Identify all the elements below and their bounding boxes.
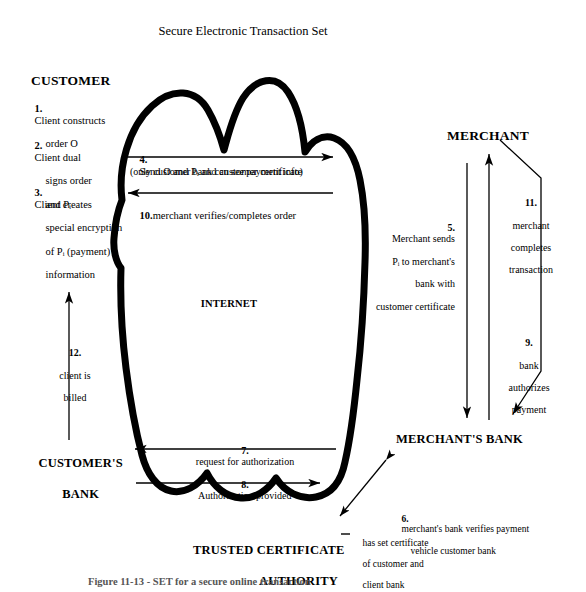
flow-step-12-num: 12. [69, 347, 82, 358]
flow-step-9-line-2: authorizes [508, 382, 549, 393]
cloud-label-internet: INTERNET [198, 298, 260, 310]
customer-step-2-num: 2. [35, 140, 43, 151]
flow-step-8-text: Authorization provided [198, 490, 292, 501]
node-customers-bank: CUSTOMER'S BANK [24, 441, 124, 517]
flow-step-10-num: 10. [140, 210, 153, 221]
customer-step-3-line-2: special encryption [46, 222, 123, 234]
flow-step-9-line-1: bank [519, 360, 538, 371]
flow-step-11: 11. merchant completes transaction [495, 186, 557, 287]
node-tca-line-1: TRUSTED CERTIFICATE [193, 543, 344, 557]
flow-step-11-line-2: completes [511, 242, 552, 253]
node-customers-bank-line-2: BANK [62, 487, 99, 501]
flow-step-5-line-1: Merchant sends [392, 233, 455, 244]
node-merchant: MERCHANT [447, 128, 529, 143]
customer-step-3-line-3: of Pᵢ (payment) [46, 246, 111, 258]
customer-step-3-line-4: information [46, 269, 96, 281]
customer-step-1-num: 1. [35, 103, 43, 114]
tca-note: has set certificate of customer and clie… [353, 527, 428, 592]
customer-step-3: 3. Client creates special encryption of … [24, 175, 122, 293]
flow-step-11-num: 11. [525, 197, 537, 208]
diagram-title: Secure Electronic Transaction Set [143, 24, 343, 38]
flow-step-9: 9. bank authorizes payment [495, 326, 553, 427]
flow-step-5: 5. Merchant sends Pᵢ to merchant's bank … [357, 211, 455, 323]
tca-note-line-2: of customer and [363, 559, 424, 569]
flow-step-10: 10.merchant verifies/completes order [129, 198, 296, 233]
flow-step-5-line-2: Pᵢ to merchant's [392, 256, 455, 267]
flow-step-11-line-1: merchant [512, 220, 549, 231]
tca-note-line-3: client bank [363, 580, 405, 590]
flow-step-12-line-1: client is [59, 370, 90, 381]
tca-note-line-1: has set certificate [363, 538, 429, 548]
flow-step-10-text: merchant verifies/completes order [153, 210, 296, 221]
figure-caption: Figure 11-13 - SET for a secure online t… [88, 576, 311, 588]
customer-step-2-line-1: Client dual [35, 152, 81, 163]
flow-step-5-num: 5. [448, 222, 456, 233]
flow-step-5-line-3: bank with [415, 278, 455, 289]
flow-step-8: 8. Authorization provided [160, 468, 320, 513]
flow-step-4-num: 4. [140, 154, 148, 165]
flow-step-9-num: 9. [525, 337, 533, 348]
node-customer: CUSTOMER [31, 73, 110, 88]
flow-step-11-line-3: transaction [509, 264, 553, 275]
customer-step-3-line-1: Client creates [35, 199, 92, 210]
customer-step-3-num: 3. [35, 187, 43, 198]
flow-step-9-line-3: payment [512, 404, 546, 415]
flow-step-12: 12. client is billed [46, 336, 94, 414]
flow-step-7-text: request for authorization [196, 456, 294, 467]
flow-step-12-line-2: billed [64, 392, 87, 403]
node-merchants-bank: MERCHANT'S BANK [396, 432, 523, 446]
flow-step-5-line-4: customer certificate [376, 301, 455, 312]
flow-step-8-num: 8. [241, 479, 249, 490]
flow-step-7-num: 7. [241, 445, 249, 456]
flow-step-4-note: (only customer bank can see payment info… [130, 166, 303, 177]
node-customers-bank-line-1: CUSTOMER'S [38, 456, 122, 470]
flow-step-6-num: 6. [402, 514, 409, 524]
customer-step-1-line-1: Client constructs [35, 115, 106, 126]
